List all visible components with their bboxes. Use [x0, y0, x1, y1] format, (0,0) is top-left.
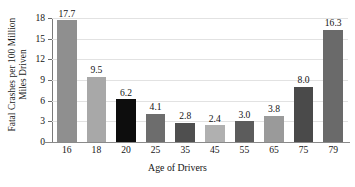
- y-tick-label: 15: [29, 34, 45, 44]
- bar-value-label: 3.8: [258, 104, 290, 114]
- bar-value-label: 9.5: [80, 65, 112, 75]
- x-tick-label: 45: [199, 145, 231, 155]
- bar: [87, 77, 107, 142]
- y-tick-label: 3: [29, 116, 45, 126]
- bar: [175, 123, 195, 142]
- bar: [323, 30, 343, 142]
- x-tick-label: 65: [258, 145, 290, 155]
- y-tick-label: 6: [29, 96, 45, 106]
- x-tick-label: 75: [288, 145, 320, 155]
- bar: [294, 87, 314, 142]
- plot-area: 17.79.56.24.12.82.43.03.88.016.3: [52, 18, 348, 142]
- x-tick-label: 25: [140, 145, 172, 155]
- bar: [205, 125, 225, 142]
- x-tick-label: 79: [317, 145, 349, 155]
- gridline: [52, 39, 348, 40]
- y-tick-label: 9: [29, 75, 45, 85]
- bar: [57, 20, 77, 142]
- x-tick-label: 35: [169, 145, 201, 155]
- bar-value-label: 16.3: [317, 18, 349, 28]
- y-axis-title-line1: Fatal Crashes per 100 Million: [7, 18, 17, 132]
- bar-value-label: 2.8: [169, 111, 201, 121]
- bar: [235, 121, 255, 142]
- bar-chart: Fatal Crashes per 100 Million Miles Driv…: [0, 0, 355, 187]
- bar-value-label: 8.0: [288, 75, 320, 85]
- x-tick-label: 18: [80, 145, 112, 155]
- y-axis-title-line2: Miles Driven: [18, 18, 29, 132]
- x-tick-label: 16: [51, 145, 83, 155]
- y-tick-label: 0: [29, 137, 45, 147]
- bar-value-label: 3.0: [228, 110, 260, 120]
- bar-value-label: 2.4: [199, 114, 231, 124]
- y-tick-label: 12: [29, 54, 45, 64]
- bar-value-label: 4.1: [140, 102, 172, 112]
- bar: [264, 116, 284, 142]
- bar-value-label: 17.7: [51, 9, 83, 19]
- gridline: [52, 18, 348, 19]
- x-axis-title: Age of Drivers: [0, 162, 355, 173]
- bar-value-label: 6.2: [110, 88, 142, 98]
- gridline: [52, 59, 348, 60]
- x-tick-label: 20: [110, 145, 142, 155]
- x-tick-label: 55: [228, 145, 260, 155]
- bar: [116, 99, 136, 142]
- bar: [146, 114, 166, 142]
- y-tick-label: 18: [29, 13, 45, 23]
